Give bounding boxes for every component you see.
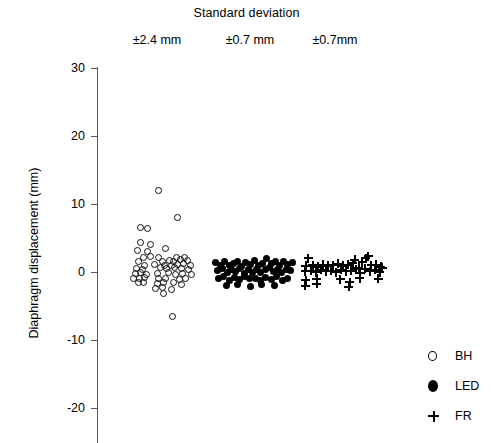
data-point-bh (174, 214, 181, 221)
y-tick-20 (91, 136, 97, 137)
data-point-led (289, 259, 296, 266)
data-point-bh (137, 224, 144, 231)
data-point-fr (378, 263, 387, 272)
data-point-bh (134, 247, 141, 254)
data-point-bh (169, 313, 176, 320)
y-tick-label: -10 (55, 333, 85, 347)
data-point-bh (162, 245, 169, 252)
data-point-bh (144, 225, 151, 232)
data-point-bh (147, 253, 154, 260)
data-point-bh (170, 279, 177, 286)
data-point-bh (155, 187, 162, 194)
legend-item-led: LED (428, 378, 488, 394)
y-tick-0 (91, 272, 97, 273)
y-tick-label: 0 (55, 265, 85, 279)
data-point-bh (140, 279, 147, 286)
group-header-bh: ±2.4 mm (133, 33, 182, 47)
data-point-led (287, 267, 294, 274)
chart-title: Standard deviation (0, 6, 493, 20)
y-axis-label: Diaphragm displacement (mm) (27, 143, 41, 363)
open-circle-icon (428, 351, 437, 361)
y-tick-30 (91, 68, 97, 69)
data-point-fr (355, 274, 364, 283)
y-tick-neg20 (91, 408, 97, 409)
data-point-bh (137, 239, 144, 246)
data-point-bh (168, 286, 175, 293)
plus-icon (428, 411, 439, 422)
data-point-led (247, 283, 254, 290)
filled-circle-icon (428, 380, 438, 392)
y-tick-label: -20 (55, 401, 85, 415)
chart-figure: Standard deviation ±2.4 mm ±0.7 mm ±0.7m… (0, 0, 493, 443)
legend-label: FR (455, 409, 472, 423)
legend-item-fr: FR (428, 408, 488, 424)
y-axis-line (97, 67, 98, 443)
data-point-bh (160, 290, 167, 297)
data-point-led (271, 282, 278, 289)
data-point-bh (178, 281, 185, 288)
y-tick-label: 10 (55, 197, 85, 211)
y-tick-label: 20 (55, 129, 85, 143)
data-point-led (258, 281, 265, 288)
data-point-led (284, 275, 291, 282)
y-tick-neg10 (91, 340, 97, 341)
data-point-led (223, 282, 230, 289)
group-header-fr: ±0.7mm (312, 33, 357, 47)
group-header-led: ±0.7 mm (226, 33, 275, 47)
y-tick-10 (91, 204, 97, 205)
data-point-fr (374, 274, 383, 283)
data-point-led (234, 281, 241, 288)
legend-label: BH (455, 349, 472, 363)
legend-item-bh: BH (428, 348, 488, 364)
data-point-fr (301, 281, 310, 290)
legend-label: LED (455, 379, 479, 393)
y-tick-label: 30 (55, 61, 85, 75)
data-point-fr (312, 279, 321, 288)
data-point-fr (344, 282, 353, 291)
